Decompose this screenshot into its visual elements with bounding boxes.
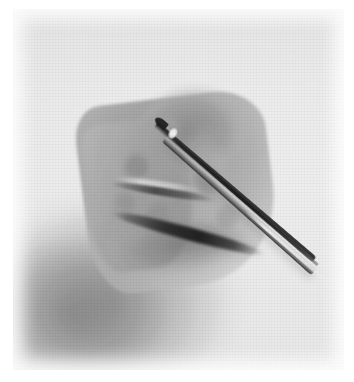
figure-root xyxy=(0,0,354,382)
photograph-plate xyxy=(13,9,344,370)
